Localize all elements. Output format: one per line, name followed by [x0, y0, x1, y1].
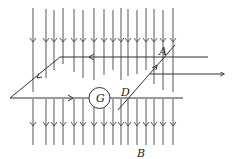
label-d: D [120, 86, 130, 99]
magnetic-field-lines [30, 8, 176, 145]
conducting-loop [10, 45, 224, 110]
label-b: B [136, 147, 145, 159]
left-edge [10, 57, 60, 98]
rod-arrow-icon [152, 65, 157, 70]
label-a: A [158, 45, 167, 58]
label-g: G [96, 92, 105, 105]
induction-diagram: G A D B [0, 0, 233, 159]
